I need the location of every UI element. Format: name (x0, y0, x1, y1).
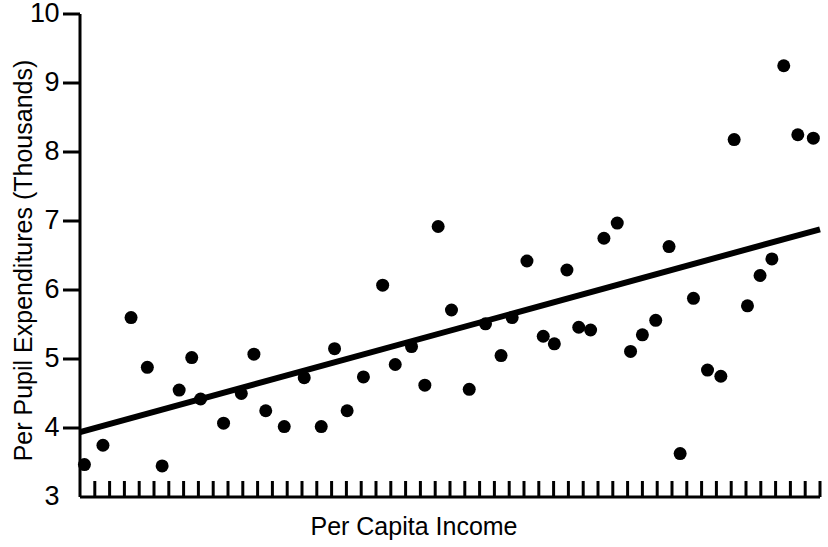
x-axis-title: Per Capita Income (0, 512, 828, 541)
y-axis-ticks (63, 14, 80, 428)
plot-area (0, 0, 828, 547)
trend-line (80, 229, 820, 432)
axes (80, 14, 820, 497)
x-axis-ticks (95, 481, 820, 497)
data-points (78, 59, 820, 472)
y-tick-label: 10 (15, 0, 59, 27)
scatter-chart: 345678910 Per Pupil Expenditures (Thousa… (0, 0, 828, 547)
y-axis-title: Per Pupil Expenditures (Thousands) (9, 26, 38, 496)
